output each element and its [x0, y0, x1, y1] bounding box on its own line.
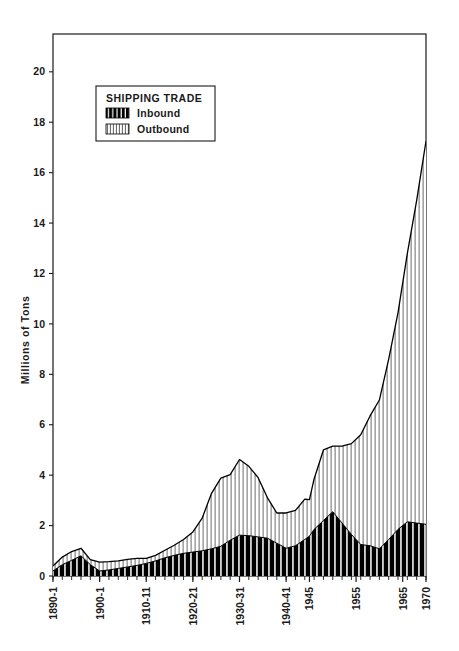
legend-swatch-inbound — [106, 108, 129, 118]
x-tick-label: 1900-1 — [94, 587, 106, 620]
chart-svg: 02468101214161820 1890-11900-11910-11192… — [0, 0, 459, 651]
x-tick-label: 1920-21 — [187, 587, 199, 626]
x-tick-label: 1890-1 — [47, 587, 59, 620]
y-tick-label: 8 — [39, 368, 45, 380]
x-tick-label: 1945 — [303, 587, 315, 611]
y-tick-label: 14 — [33, 217, 45, 229]
legend-label-outbound: Outbound — [137, 123, 190, 135]
chart-figure: 02468101214161820 1890-11900-11910-11192… — [0, 0, 459, 651]
y-tick-label: 10 — [33, 318, 45, 330]
x-tick-label: 1940-41 — [280, 587, 292, 626]
legend-label-inbound: Inbound — [137, 107, 181, 119]
x-tick-label: 1955 — [350, 587, 362, 611]
y-tick-label: 16 — [33, 166, 45, 178]
y-tick-label: 6 — [39, 418, 45, 430]
y-axis-title: Millions of Tons — [19, 296, 31, 385]
legend: SHIPPING TRADE Inbound Outbound — [96, 86, 215, 141]
y-tick-label: 4 — [39, 469, 45, 481]
y-tick-label: 12 — [33, 267, 45, 279]
y-tick-label: 20 — [33, 65, 45, 77]
y-tick-label: 18 — [33, 116, 45, 128]
y-tick-label: 2 — [39, 519, 45, 531]
x-tick-label: 1965 — [397, 587, 409, 611]
x-tick-label: 1970 — [420, 587, 432, 611]
legend-title: SHIPPING TRADE — [106, 92, 202, 104]
x-tick-label: 1930-31 — [234, 587, 246, 626]
x-tick-label: 1910-11 — [140, 587, 152, 625]
legend-swatch-outbound — [106, 124, 129, 134]
y-tick-label: 0 — [39, 570, 45, 582]
